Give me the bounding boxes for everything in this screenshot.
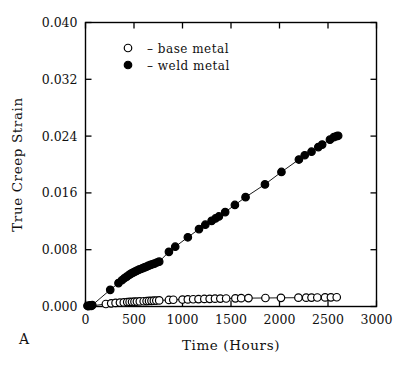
plot-canvas: 0500100015002000250030000.0000.0080.0160…	[0, 0, 415, 386]
data-point	[221, 208, 229, 216]
y-tick-label-0: 0.000	[42, 299, 78, 314]
y-tick-label-1: 0.008	[42, 242, 78, 257]
data-point	[261, 181, 269, 189]
legend-label-base-metal: – base metal	[147, 42, 229, 56]
y-tick-label-4: 0.032	[42, 72, 78, 87]
data-point	[106, 286, 114, 294]
data-point	[155, 297, 163, 305]
data-point	[308, 148, 316, 156]
data-point	[170, 296, 178, 304]
data-point	[333, 294, 341, 302]
data-point	[171, 243, 179, 251]
y-axis-title: True Creep Strain	[9, 97, 25, 232]
data-point	[222, 295, 230, 303]
x-axis-title: Time (Hours)	[182, 337, 280, 353]
data-point	[278, 168, 286, 176]
x-tick-label-500: 500	[122, 312, 146, 327]
x-tick-label-2000: 2000	[264, 312, 296, 327]
y-tick-label-3: 0.024	[42, 129, 78, 144]
x-tick-label-3000: 3000	[361, 312, 393, 327]
data-point	[231, 201, 239, 209]
legend-marker-base-metal	[124, 44, 132, 52]
data-point	[89, 301, 97, 309]
data-point	[318, 141, 326, 149]
x-tick-label-0: 0	[82, 312, 90, 327]
data-point	[295, 294, 303, 302]
data-point	[262, 294, 270, 302]
data-point	[314, 294, 322, 302]
y-tick-label-2: 0.016	[42, 185, 78, 200]
data-point	[155, 258, 163, 266]
creep-strain-figure: 0500100015002000250030000.0000.0080.0160…	[0, 0, 415, 386]
series-base-metal	[85, 294, 341, 310]
legend-marker-weld-metal	[124, 61, 132, 69]
data-point	[184, 234, 192, 242]
data-point	[165, 248, 173, 256]
x-tick-label-1000: 1000	[167, 312, 199, 327]
x-tick-label-1500: 1500	[215, 312, 247, 327]
data-point	[245, 294, 253, 302]
data-point	[334, 132, 342, 140]
data-point	[242, 193, 250, 201]
panel-label: A	[18, 331, 30, 347]
x-tick-label-2500: 2500	[312, 312, 344, 327]
series-weld-metal	[84, 132, 342, 310]
y-tick-label-5: 0.040	[42, 15, 78, 30]
data-point	[277, 294, 285, 302]
legend-label-weld-metal: – weld metal	[147, 59, 230, 73]
data-point	[237, 294, 245, 302]
